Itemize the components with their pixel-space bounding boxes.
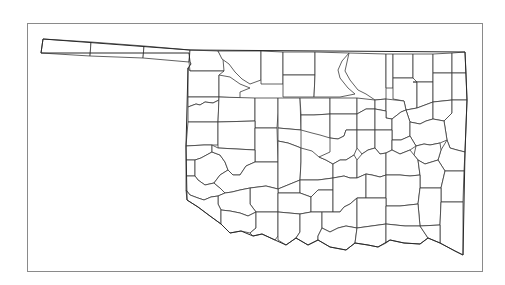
county-region	[255, 98, 278, 128]
county-region	[330, 98, 357, 114]
county-region	[186, 122, 218, 146]
oklahoma-county-map	[0, 0, 505, 285]
county-region	[440, 202, 463, 255]
county-region	[452, 73, 467, 100]
county-region	[386, 204, 420, 226]
county-region	[386, 175, 420, 206]
county-region	[433, 73, 452, 102]
county-region	[386, 54, 393, 88]
county-region	[366, 174, 386, 198]
county-region	[452, 52, 466, 73]
county-region	[283, 52, 315, 75]
county-region	[300, 98, 330, 115]
county-layer	[41, 39, 467, 255]
county-region	[278, 98, 301, 130]
county-region	[261, 51, 283, 84]
county-region	[413, 54, 433, 82]
county-region	[186, 160, 195, 176]
county-region	[393, 54, 413, 78]
county-region	[410, 119, 447, 146]
county-region	[418, 188, 441, 226]
county-region	[418, 160, 445, 188]
county-region	[283, 75, 315, 97]
county-region	[278, 193, 311, 214]
county-region	[311, 190, 333, 212]
county-region	[250, 186, 278, 212]
county-region	[375, 130, 392, 154]
county-region	[301, 114, 330, 138]
county-region	[278, 212, 300, 245]
county-region	[218, 97, 255, 122]
county-region	[441, 171, 464, 202]
county-region	[357, 109, 375, 130]
county-region	[357, 198, 386, 228]
county-region	[433, 53, 452, 73]
county-region	[218, 121, 255, 150]
county-region	[255, 128, 278, 162]
